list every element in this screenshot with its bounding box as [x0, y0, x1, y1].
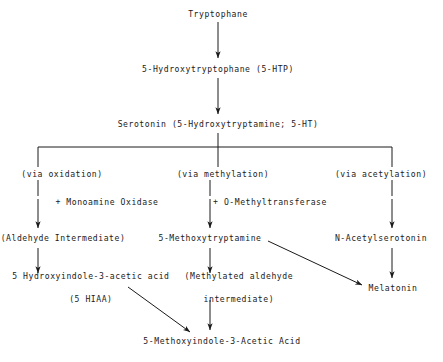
label-o-methyltransferase: + O-Methyltransferase — [213, 197, 327, 208]
node-methylated-line1: (Methylated aldehyde — [185, 271, 293, 281]
label-via-acetylation: (via acetylation) — [335, 169, 427, 180]
node-serotonin: Serotonin (5-Hydroxytryptamine; 5-HT) — [118, 119, 319, 130]
node-5-methoxytryptamine: 5-Methoxytryptamine — [158, 233, 261, 244]
label-via-methylation: (via methylation) — [177, 169, 269, 180]
node-5-hydroxytryptophane: 5-Hydroxytryptophane (5-HTP) — [142, 64, 294, 75]
node-methylated-aldehyde-intermediate: (Methylated aldehyde intermediate) — [163, 259, 293, 317]
node-aldehyde-intermediate: (Aldehyde Intermediate) — [1, 233, 126, 244]
label-monoamine-oxidase: + Monoamine Oxidase — [55, 197, 158, 208]
node-n-acetylserotonin: N-Acetylserotonin — [335, 233, 427, 244]
node-methylated-line2: intermediate) — [204, 294, 275, 304]
node-5-methoxyindole-3-acetic-acid: 5-Methoxyindole-3-Acetic Acid — [143, 336, 300, 347]
node-5-hiaa: 5 Hydroxyindole-3-acetic acid (5 HIAA) — [0, 259, 169, 317]
node-tryptophane: Tryptophane — [188, 9, 248, 20]
label-via-oxidation: (via oxidation) — [21, 169, 102, 180]
node-melatonin: Melatonin — [369, 283, 418, 294]
node-5-hiaa-line1: 5 Hydroxyindole-3-acetic acid — [12, 271, 169, 281]
node-5-hiaa-line2: (5 HIAA) — [69, 294, 112, 304]
pathway-diagram: Tryptophane 5-Hydroxytryptophane (5-HTP)… — [0, 0, 443, 362]
